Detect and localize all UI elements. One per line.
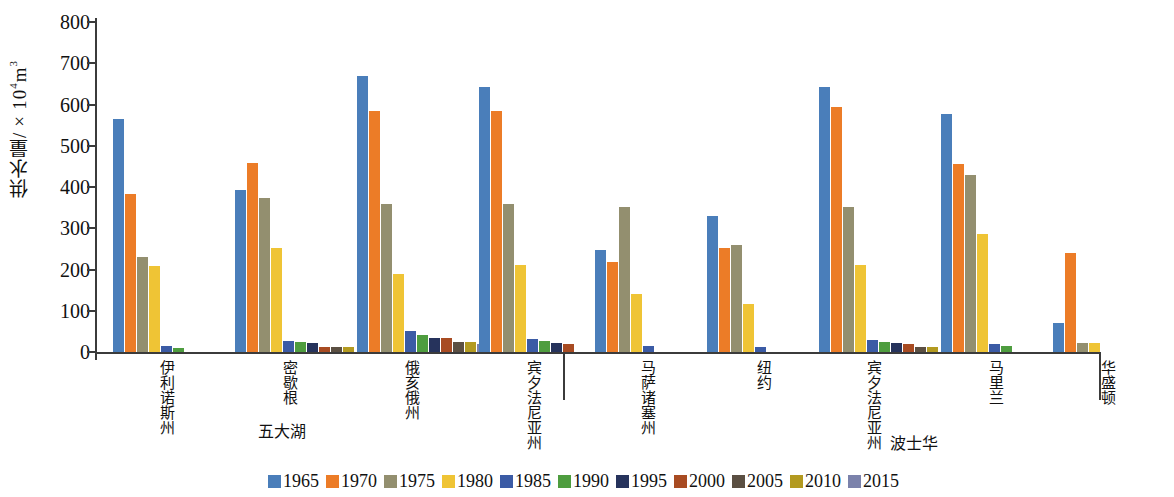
legend-label: 1970	[341, 471, 377, 492]
legend-swatch-icon	[500, 475, 513, 488]
legend-swatch-icon	[732, 475, 745, 488]
bar	[551, 343, 562, 352]
bar	[607, 262, 618, 352]
legend-item[interactable]: 1995	[616, 471, 667, 492]
legend-swatch-icon	[848, 475, 861, 488]
legend-item[interactable]: 2005	[732, 471, 783, 492]
bar	[831, 107, 842, 352]
bar	[453, 342, 464, 352]
legend-swatch-icon	[790, 475, 803, 488]
legend-item[interactable]: 1975	[384, 471, 435, 492]
x-axis-line	[95, 352, 1101, 354]
x-category-label: 俄亥俄州	[403, 360, 418, 420]
y-tick-label: 100	[38, 299, 90, 322]
y-tick-mark	[87, 145, 96, 147]
bar	[161, 346, 172, 352]
legend-item[interactable]: 1980	[442, 471, 493, 492]
legend-swatch-icon	[616, 475, 629, 488]
bar	[965, 175, 976, 352]
region-label-great-lakes: 五大湖	[258, 418, 306, 442]
bar	[927, 347, 938, 352]
bar	[113, 119, 124, 352]
bar	[527, 339, 538, 352]
bar	[643, 346, 654, 352]
bar-group	[1053, 22, 1174, 352]
bar	[307, 343, 318, 352]
x-category-label: 华盛顿	[1099, 360, 1114, 405]
bar	[1053, 323, 1064, 352]
bar	[331, 347, 342, 352]
bar	[879, 342, 890, 352]
y-tick-label: 200	[38, 258, 90, 281]
bar	[977, 234, 988, 352]
bar	[343, 347, 354, 352]
bar	[731, 245, 742, 352]
bar	[719, 248, 730, 352]
x-category-label: 伊利诺斯州	[158, 360, 173, 435]
legend-label: 1980	[457, 471, 493, 492]
bar	[743, 304, 754, 352]
y-axis-title: 供水量/×104m3	[6, 60, 36, 198]
bar	[903, 344, 914, 352]
bar	[843, 207, 854, 352]
region-bracket-left-end	[95, 352, 97, 360]
bar	[381, 204, 392, 352]
legend-swatch-icon	[326, 475, 339, 488]
legend-label: 2000	[689, 471, 725, 492]
y-tick-label: 500	[38, 134, 90, 157]
bar	[819, 87, 830, 352]
legend-swatch-icon	[268, 475, 281, 488]
legend-item[interactable]: 2000	[674, 471, 725, 492]
y-tick-mark	[87, 104, 96, 106]
bar	[173, 348, 184, 352]
bar	[319, 347, 330, 352]
y-tick-mark	[87, 269, 96, 271]
bar	[503, 204, 514, 353]
bar	[867, 340, 878, 352]
bar	[1089, 343, 1100, 352]
chart-legend: 1965197019751980198519901995200020052010…	[0, 471, 1174, 492]
y-tick-mark	[87, 62, 96, 64]
bar	[247, 163, 258, 352]
bar	[539, 341, 550, 352]
bar	[235, 190, 246, 352]
legend-item[interactable]: 1965	[268, 471, 319, 492]
bar	[1077, 343, 1088, 352]
bar	[137, 257, 148, 352]
legend-swatch-icon	[384, 475, 397, 488]
bar	[417, 335, 428, 352]
legend-label: 2005	[747, 471, 783, 492]
bar	[479, 87, 490, 352]
bar	[295, 342, 306, 352]
y-tick-label: 0	[38, 341, 90, 364]
legend-label: 1990	[573, 471, 609, 492]
bar	[125, 194, 136, 352]
x-category-label: 宾夕法尼亚州	[525, 360, 540, 450]
legend-item[interactable]: 2010	[790, 471, 841, 492]
legend-label: 2015	[863, 471, 899, 492]
bar-group	[113, 22, 245, 352]
bar	[393, 274, 404, 352]
bar	[1065, 253, 1076, 352]
bar	[953, 164, 964, 353]
bar	[259, 198, 270, 352]
legend-label: 1995	[631, 471, 667, 492]
x-category-label: 纽约	[755, 360, 770, 390]
bar	[369, 111, 380, 352]
legend-label: 1975	[399, 471, 435, 492]
legend-item[interactable]: 1990	[558, 471, 609, 492]
legend-item[interactable]: 1970	[326, 471, 377, 492]
plot-area	[95, 22, 1101, 352]
legend-item[interactable]: 2015	[848, 471, 899, 492]
bar	[915, 347, 926, 352]
legend-swatch-icon	[558, 475, 571, 488]
bar	[891, 343, 902, 352]
bar	[515, 265, 526, 352]
bar	[941, 114, 952, 352]
legend-item[interactable]: 1985	[500, 471, 551, 492]
y-tick-mark	[87, 351, 96, 353]
y-tick-mark	[87, 227, 96, 229]
legend-swatch-icon	[674, 475, 687, 488]
x-category-label: 密歇根	[281, 360, 296, 405]
bar-group	[479, 22, 611, 352]
